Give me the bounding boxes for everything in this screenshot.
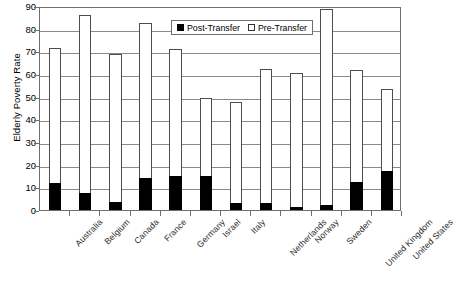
- bar-group: [221, 8, 251, 210]
- bar-post-transfer: [79, 193, 92, 210]
- x-axis-label-france: France: [162, 217, 188, 243]
- bar-pre-transfer: [79, 15, 92, 210]
- bars-layer: [40, 8, 400, 210]
- y-tick-label: 90: [14, 2, 36, 12]
- y-axis-tick-labels: 0102030405060708090: [14, 0, 36, 292]
- bar-group: [131, 8, 161, 210]
- bar-post-transfer: [230, 203, 243, 210]
- bar-group: [70, 8, 100, 210]
- chart-legend: Post-Transfer Pre-Transfer: [171, 20, 313, 35]
- bar-post-transfer: [260, 203, 273, 210]
- bar-group: [312, 8, 342, 210]
- bar-group: [342, 8, 372, 210]
- bar-pre-transfer: [320, 9, 333, 210]
- bar-group: [281, 8, 311, 210]
- y-tick-label: 10: [14, 184, 36, 194]
- bar-group: [100, 8, 130, 210]
- bar-group: [161, 8, 191, 210]
- bar-post-transfer: [290, 207, 303, 210]
- x-tick-mark: [401, 211, 402, 216]
- bar-pre-transfer: [260, 69, 273, 210]
- bar-group: [40, 8, 70, 210]
- bar-pre-transfer: [109, 54, 122, 210]
- bar-pre-transfer: [290, 73, 303, 210]
- x-axis-category-labels: AustraliaBelgiumCanadaFranceGermanyIsrae…: [39, 213, 401, 292]
- legend-item-post-transfer: Post-Transfer: [177, 23, 240, 33]
- hollow-square-icon: [248, 24, 255, 31]
- legend-item-pre-transfer: Pre-Transfer: [248, 23, 307, 33]
- bar-group: [372, 8, 402, 210]
- x-axis-label-italy: Italy: [249, 217, 268, 236]
- bar-group: [191, 8, 221, 210]
- bar-post-transfer: [200, 176, 213, 210]
- bar-post-transfer: [350, 182, 363, 210]
- y-tick-label: 60: [14, 70, 36, 80]
- bar-post-transfer: [320, 205, 333, 210]
- y-tick-label: 20: [14, 161, 36, 171]
- y-tick-label: 30: [14, 138, 36, 148]
- x-axis-label-australia: Australia: [73, 217, 104, 248]
- legend-label-post-transfer: Post-Transfer: [187, 23, 240, 33]
- filled-square-icon: [177, 24, 184, 31]
- bar-post-transfer: [381, 171, 394, 210]
- bar-post-transfer: [169, 176, 182, 210]
- x-axis-label-sweden: Sweden: [344, 217, 373, 246]
- bar-pre-transfer: [230, 102, 243, 210]
- y-tick-label: 70: [14, 48, 36, 58]
- y-tick-label: 80: [14, 25, 36, 35]
- y-tick-label: 50: [14, 93, 36, 103]
- plot-area: [39, 7, 401, 211]
- bar-group: [251, 8, 281, 210]
- y-tick-label: 0: [14, 206, 36, 216]
- bar-post-transfer: [49, 183, 62, 210]
- y-tick-label: 40: [14, 116, 36, 126]
- bar-post-transfer: [109, 202, 122, 210]
- x-axis-label-canada: Canada: [132, 217, 161, 246]
- x-axis-label-belgium: Belgium: [103, 217, 133, 247]
- bar-post-transfer: [139, 178, 152, 210]
- legend-label-pre-transfer: Pre-Transfer: [258, 23, 307, 33]
